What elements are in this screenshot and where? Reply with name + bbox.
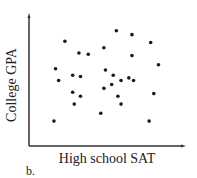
data-point xyxy=(52,119,56,123)
data-point xyxy=(99,111,103,115)
data-point xyxy=(63,39,67,43)
data-point xyxy=(71,90,75,94)
data-point xyxy=(157,63,161,67)
data-point xyxy=(86,53,90,57)
data-point xyxy=(111,73,115,77)
y-axis-label-text: College GPA xyxy=(4,48,20,122)
data-point xyxy=(130,33,134,37)
data-point xyxy=(119,79,123,83)
data-point xyxy=(104,68,108,72)
data-point xyxy=(127,76,131,80)
data-point xyxy=(149,41,153,45)
y-axis-label: College GPA xyxy=(2,50,22,120)
data-point xyxy=(115,29,119,33)
data-point xyxy=(72,102,76,106)
data-point xyxy=(152,92,156,96)
data-point xyxy=(119,102,123,106)
data-point xyxy=(132,79,136,83)
data-point xyxy=(102,87,106,91)
data-point xyxy=(71,73,75,77)
panel-label: b. xyxy=(26,164,35,178)
x-axis-label: High school SAT xyxy=(29,151,185,167)
data-point xyxy=(54,67,58,71)
x-axis-arrow-icon xyxy=(181,145,186,148)
data-point xyxy=(116,94,120,98)
data-point xyxy=(130,54,134,58)
y-axis-arrow-icon xyxy=(28,13,31,18)
data-point xyxy=(77,51,81,55)
data-point xyxy=(110,83,114,87)
data-point xyxy=(79,94,83,98)
data-point xyxy=(102,46,106,50)
data-points xyxy=(52,29,160,123)
data-point xyxy=(57,79,61,83)
data-point xyxy=(79,75,83,79)
data-point xyxy=(147,119,151,123)
axes xyxy=(28,13,187,148)
